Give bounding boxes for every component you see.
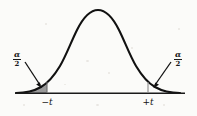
right-annotation-arrow-line	[155, 62, 171, 85]
bell-curve-path	[16, 10, 180, 93]
scan-speck	[45, 23, 47, 25]
alpha-denominator-right: 2	[172, 60, 184, 68]
alpha-denominator-left: 2	[11, 60, 23, 68]
scan-speck	[178, 28, 180, 30]
left-annotation-arrow-line	[25, 62, 40, 85]
axis-label-positive-t: +t	[134, 97, 162, 107]
scan-speck	[86, 60, 89, 62]
alpha-numerator-left: α	[11, 50, 23, 58]
alpha-numerator-right: α	[172, 50, 184, 58]
scan-speck	[131, 47, 133, 49]
alpha-over-two-label-left: α 2	[11, 50, 23, 68]
scan-speck	[64, 84, 66, 85]
scan-speck	[108, 72, 110, 74]
distribution-plot	[0, 0, 197, 116]
scan-speck	[96, 104, 99, 106]
scan-speck	[163, 104, 165, 106]
axis-label-negative-t: −t	[33, 97, 61, 107]
scan-speck	[23, 104, 25, 106]
t-distribution-figure: α 2 α 2 −t +t	[0, 0, 197, 116]
alpha-over-two-label-right: α 2	[172, 50, 184, 68]
